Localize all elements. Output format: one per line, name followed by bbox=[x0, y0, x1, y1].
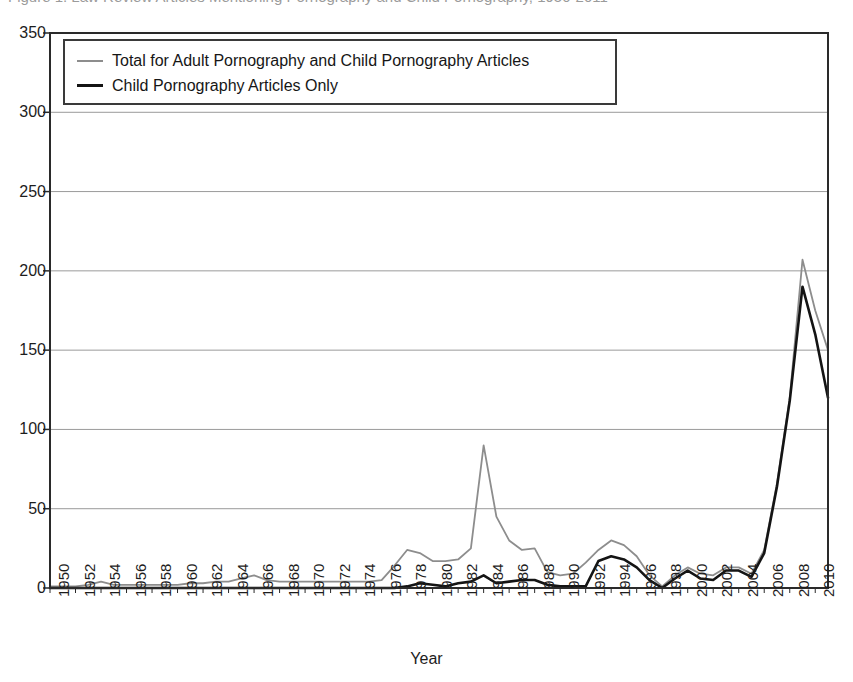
x-axis-tick-label: 2006 bbox=[770, 564, 785, 597]
x-axis-tick-label: 1968 bbox=[286, 564, 301, 597]
y-axis-tick-label: 200 bbox=[2, 263, 46, 279]
x-axis-tick-label: 1984 bbox=[490, 564, 505, 597]
y-axis-tick-label: 250 bbox=[2, 184, 46, 200]
line-swatch-gray-icon bbox=[77, 60, 103, 62]
x-axis-tick-label: 1972 bbox=[337, 564, 352, 597]
x-axis-tick-label: 1996 bbox=[643, 564, 658, 597]
chart-figure: Figure 1. Law Review Articles Mentioning… bbox=[0, 0, 853, 682]
y-axis-tick-label: 300 bbox=[2, 104, 46, 120]
x-axis-tick-label: 2004 bbox=[745, 564, 760, 597]
line-swatch-black-icon bbox=[77, 84, 103, 87]
x-axis-tick-label: 1956 bbox=[133, 564, 148, 597]
y-axis-tick-label: 0 bbox=[2, 580, 46, 596]
plot-background bbox=[50, 33, 828, 588]
x-axis-tick-label: 1986 bbox=[515, 564, 530, 597]
x-axis-tick-label: 2002 bbox=[719, 564, 734, 597]
y-axis-tick-label: 150 bbox=[2, 342, 46, 358]
x-axis-tick-label: 2000 bbox=[694, 564, 709, 597]
x-axis-tick-label: 2010 bbox=[821, 564, 836, 597]
x-axis-tick-label: 1952 bbox=[82, 564, 97, 597]
legend-label-child: Child Pornography Articles Only bbox=[112, 77, 338, 95]
y-axis-tick-label: 350 bbox=[2, 25, 46, 41]
x-axis-tick-label: 1974 bbox=[362, 564, 377, 597]
x-axis-tick-label: 1954 bbox=[107, 564, 122, 597]
x-axis-title: Year bbox=[0, 650, 853, 668]
x-axis-tick-label: 1958 bbox=[158, 564, 173, 597]
legend-item-total: Total for Adult Pornography and Child Po… bbox=[77, 48, 615, 73]
y-axis-tick-label: 100 bbox=[2, 421, 46, 437]
x-axis-tick-label: 1964 bbox=[235, 564, 250, 597]
x-axis-tick-label: 1988 bbox=[541, 564, 556, 597]
y-axis-tick-label: 50 bbox=[2, 501, 46, 517]
x-axis-tick-label: 1982 bbox=[464, 564, 479, 597]
x-axis-tick-label: 1980 bbox=[439, 564, 454, 597]
x-axis-tick-label: 1978 bbox=[413, 564, 428, 597]
x-axis-tick-label: 1970 bbox=[311, 564, 326, 597]
x-axis-tick-label: 1960 bbox=[184, 564, 199, 597]
legend-item-child: Child Pornography Articles Only bbox=[77, 73, 615, 98]
x-axis-tick-label: 1962 bbox=[209, 564, 224, 597]
x-axis-tick-label: 1992 bbox=[592, 564, 607, 597]
x-axis-tick-label: 1950 bbox=[56, 564, 71, 597]
chart-legend: Total for Adult Pornography and Child Po… bbox=[63, 39, 617, 105]
x-axis-tick-label: 1990 bbox=[566, 564, 581, 597]
x-axis-tick-label: 1966 bbox=[260, 564, 275, 597]
x-axis-tick-label: 1976 bbox=[388, 564, 403, 597]
x-axis-tick-label: 1998 bbox=[668, 564, 683, 597]
x-axis-tick-label: 2008 bbox=[796, 564, 811, 597]
legend-label-total: Total for Adult Pornography and Child Po… bbox=[112, 52, 529, 70]
x-axis-tick-label: 1994 bbox=[617, 564, 632, 597]
